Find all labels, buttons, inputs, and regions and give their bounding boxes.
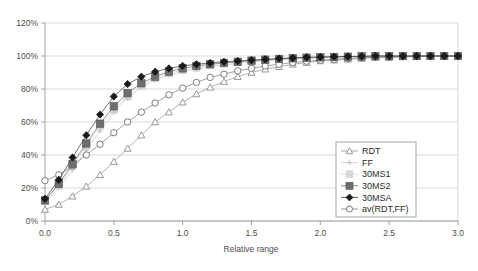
y-tick-label: 0% <box>26 216 39 226</box>
x-tick-label: 2.0 <box>314 228 326 238</box>
data-point-marker <box>42 177 48 183</box>
x-axis-title: Relative range <box>224 244 279 254</box>
y-tick-label: 40% <box>21 150 38 160</box>
chart-figure: 0%20%40%60%80%100%120% 0.00.51.01.52.02.… <box>0 0 478 271</box>
x-tick-label: 1.0 <box>177 228 189 238</box>
y-tick-label: 60% <box>21 117 38 127</box>
y-axis-ticks <box>41 23 45 221</box>
data-point-marker <box>111 130 117 136</box>
legend-label: FF <box>362 158 373 168</box>
data-point-marker <box>83 140 90 147</box>
data-point-marker <box>248 65 254 71</box>
data-point-marker <box>346 206 352 212</box>
data-point-marker <box>110 103 117 110</box>
x-axis-ticks <box>45 221 458 225</box>
data-point-marker <box>235 68 241 74</box>
data-point-marker <box>179 85 185 91</box>
y-tick-label: 100% <box>16 51 38 61</box>
data-point-marker <box>166 92 172 98</box>
x-tick-label: 0.0 <box>39 228 51 238</box>
legend-label: av(RDT,FF) <box>362 204 409 214</box>
x-tick-label: 2.5 <box>383 228 395 238</box>
data-point-marker <box>97 141 103 147</box>
chart-legend: RDTFF30MS130MS230MSAav(RDT,FF) <box>336 142 416 217</box>
legend-label: RDT <box>362 146 381 156</box>
x-tick-label: 0.5 <box>108 228 120 238</box>
x-axis-tick-labels: 0.00.51.01.52.02.53.0 <box>39 228 464 238</box>
data-point-marker <box>96 120 103 127</box>
legend-label: 30MSA <box>362 193 392 203</box>
line-chart: 0%20%40%60%80%100%120% 0.00.51.01.52.02.… <box>0 0 478 271</box>
data-point-marker <box>207 74 213 80</box>
y-tick-label: 80% <box>21 84 38 94</box>
x-tick-label: 3.0 <box>452 228 464 238</box>
data-point-marker <box>346 171 353 178</box>
legend-label: 30MS1 <box>362 169 391 179</box>
data-point-marker <box>221 71 227 77</box>
y-tick-label: 20% <box>21 183 38 193</box>
data-point-marker <box>262 63 268 69</box>
x-tick-label: 1.5 <box>246 228 258 238</box>
data-point-marker <box>346 182 353 189</box>
y-axis-tick-labels: 0%20%40%60%80%100%120% <box>16 18 38 226</box>
data-point-marker <box>193 79 199 85</box>
data-point-marker <box>152 100 158 106</box>
legend-label: 30MS2 <box>362 181 391 191</box>
data-point-marker <box>124 89 131 96</box>
legend-item-30ms2[interactable]: 30MS2 <box>341 181 391 191</box>
data-point-marker <box>138 109 144 115</box>
data-point-marker <box>83 152 89 158</box>
y-tick-label: 120% <box>16 18 38 28</box>
data-point-marker <box>124 119 130 125</box>
